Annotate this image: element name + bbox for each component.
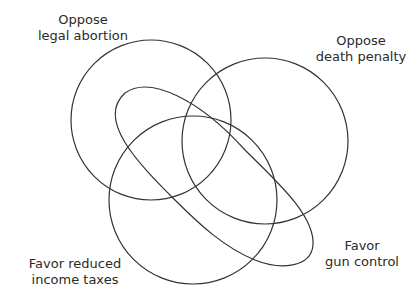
label-line-2: death penalty xyxy=(306,49,416,65)
label-favor-gun-control: Favor gun control xyxy=(312,238,412,270)
label-oppose-legal-abortion: Oppose legal abortion xyxy=(24,12,142,44)
label-line-2: legal abortion xyxy=(24,28,142,44)
label-line-1: Favor reduced xyxy=(20,256,130,272)
set-oppose-death-penalty xyxy=(182,58,348,224)
label-line-1: Favor xyxy=(312,238,412,254)
label-line-2: income taxes xyxy=(20,272,130,288)
label-favor-reduced-income-taxes: Favor reduced income taxes xyxy=(20,256,130,288)
label-line-1: Oppose xyxy=(24,12,142,28)
label-line-2: gun control xyxy=(312,254,412,270)
label-line-1: Oppose xyxy=(306,33,416,49)
label-oppose-death-penalty: Oppose death penalty xyxy=(306,33,416,65)
set-favor-gun-control xyxy=(115,87,313,266)
